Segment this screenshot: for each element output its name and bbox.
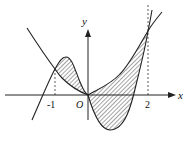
x-axis-arrow-icon	[168, 92, 176, 98]
origin-label: O	[76, 99, 83, 110]
y-axis-arrow-icon	[85, 29, 91, 37]
tick-label-two: 2	[145, 99, 150, 110]
y-axis-label: y	[81, 15, 87, 27]
area-between-curves-diagram: x y O -1 2	[0, 0, 190, 145]
tick-label-neg-one: -1	[47, 99, 55, 110]
x-axis-label: x	[177, 89, 183, 101]
